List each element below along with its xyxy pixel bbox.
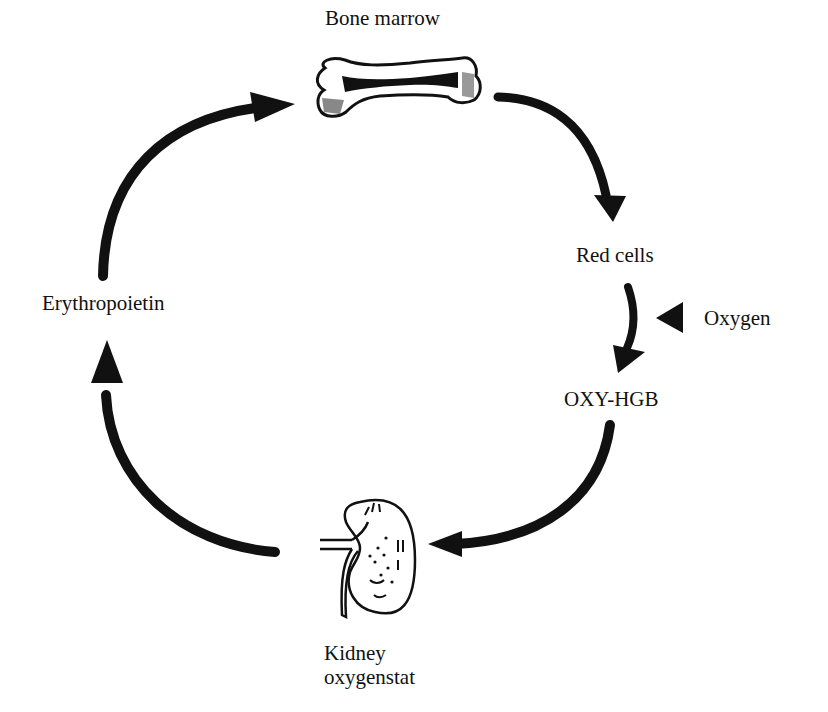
oxygen-triangle-icon (656, 302, 683, 333)
bone-marrow-label: Bone marrow (325, 8, 440, 29)
kidney-label-line2: oxygenstat (324, 665, 415, 689)
arrow-redcells-to-oxyhgb (613, 287, 645, 373)
erythropoiesis-cycle-diagram (0, 0, 828, 712)
red-cells-label: Red cells (576, 245, 654, 266)
bone-icon (317, 58, 480, 117)
kidney-oxygenstat-label: Kidney oxygenstat (324, 641, 415, 689)
arrow-epo-to-bone (103, 92, 295, 276)
erythropoietin-label: Erythropoietin (42, 293, 164, 314)
arrow-oxyhgb-to-kidney (428, 425, 610, 557)
oxygen-label: Oxygen (704, 308, 771, 329)
kidney-label-line1: Kidney (324, 641, 415, 665)
arrow-kidney-to-epo (91, 340, 275, 552)
oxy-hgb-label: OXY-HGB (564, 389, 659, 410)
arrow-bone-to-redcells (498, 97, 626, 222)
kidney-icon (320, 500, 415, 617)
